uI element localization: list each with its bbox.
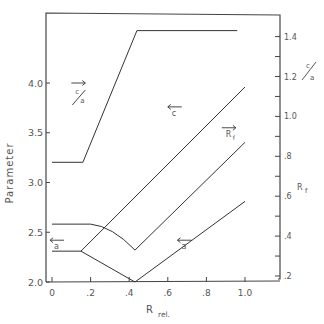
x-tick-label: 0 — [49, 288, 55, 298]
series-r-f-line — [52, 142, 245, 250]
series-c-line — [81, 87, 245, 251]
y-tick-label: 3.5 — [28, 127, 43, 138]
y-tick-label: 3.0 — [28, 177, 43, 188]
annotation-subscript: f — [233, 134, 236, 141]
annotations: cacRfaa — [50, 81, 236, 252]
x-tick-label: .6 — [164, 288, 173, 298]
chart: 0.2.4.6.81.0 2.02.53.03.54.0 .2.4.6.81.0… — [0, 0, 324, 324]
y2-tick-label: .4 — [284, 232, 292, 241]
y2-tick-label: .8 — [284, 152, 292, 161]
y2-axis-label-ca: c a — [302, 62, 316, 82]
annotation-c-a: ca — [71, 81, 85, 106]
y2-label-c: c — [306, 62, 310, 70]
y2-tick-label: 1.2 — [284, 73, 297, 82]
annotation-label: a — [54, 242, 59, 251]
y-tick-label: 2.5 — [28, 227, 43, 238]
annotation-R: Rf — [222, 125, 236, 140]
x-tick-label: 1.0 — [238, 288, 253, 298]
annotation-a: a — [50, 238, 64, 252]
y2-tick-label: .2 — [284, 272, 292, 281]
x-axis-label-main: R — [146, 304, 153, 315]
x-tick-label: .8 — [202, 288, 211, 298]
y2-tick-label: 1.4 — [284, 33, 297, 42]
y-tick-label: 2.0 — [28, 277, 43, 288]
y-axis-ticks: 2.02.53.03.54.0 — [28, 78, 50, 288]
annotation-label-c: c — [75, 88, 79, 96]
y2-axis-label-rf: R f — [297, 183, 308, 195]
frame-border — [46, 13, 280, 282]
annotation-c: c — [168, 104, 182, 118]
y2-label-r: R — [297, 183, 303, 192]
x-axis-ticks: 0.2.4.6.81.0 — [49, 277, 252, 298]
y2-label-a: a — [310, 74, 314, 82]
y2-tick-label: 1.0 — [284, 112, 297, 121]
y2-tick-label: .6 — [284, 192, 292, 201]
y-tick-label: 4.0 — [28, 78, 43, 89]
x-tick-label: .2 — [86, 288, 95, 298]
x-tick-label: .4 — [125, 288, 134, 298]
series-a-line — [52, 201, 245, 282]
y2-label-f: f — [305, 187, 308, 195]
annotation-label: a — [181, 242, 186, 251]
series-curves — [52, 31, 245, 282]
annotation-label-a: a — [80, 97, 84, 105]
y2-axis-ticks: .2.4.6.81.01.21.4 — [275, 33, 297, 281]
plot-frame — [46, 13, 280, 282]
x-axis-label: R rel. — [146, 304, 170, 319]
y-axis-label: Parameter — [4, 142, 15, 203]
x-axis-label-subscript: rel. — [158, 310, 170, 319]
annotation-label: R — [226, 130, 232, 139]
annotation-label: c — [172, 109, 176, 118]
